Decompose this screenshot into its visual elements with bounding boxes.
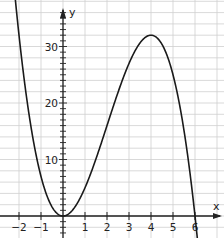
x-axis-label: x [213,200,220,213]
function-graph: −2−1123456102030 x y [0,0,224,238]
y-tick-label: 10 [45,154,58,166]
x-tick-label: 2 [104,221,111,233]
function-curve [15,0,198,238]
y-axis-label: y [69,6,76,19]
y-tick-label: 30 [45,41,58,53]
y-tick-label: 20 [45,97,58,109]
x-tick-label: −2 [11,221,26,233]
x-tick-label: −1 [33,221,48,233]
x-tick-label: 4 [148,221,155,233]
x-tick-label: 1 [82,221,89,233]
x-tick-label: 5 [170,221,177,233]
x-tick-label: 3 [126,221,133,233]
grid-lines [0,0,224,238]
axes [0,8,222,238]
